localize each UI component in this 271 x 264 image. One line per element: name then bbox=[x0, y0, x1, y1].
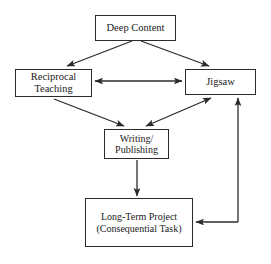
edge-reciprocal-teaching-to-writing-publishing bbox=[54, 99, 124, 126]
node-long-term-project-line-2: (Consequential Task) bbox=[97, 223, 182, 234]
node-writing-publishing: Writing/ Publishing bbox=[104, 129, 169, 159]
edge-writing-publishing-to-jigsaw bbox=[146, 98, 211, 126]
diagram-canvas: Deep Content Reciprocal Teaching Jigsaw … bbox=[0, 0, 271, 264]
node-long-term-project-line-1: Long-Term Project bbox=[101, 211, 177, 222]
node-jigsaw-line-1: Jigsaw bbox=[206, 76, 235, 88]
edge-deep-content-to-reciprocal-teaching bbox=[67, 41, 132, 66]
node-deep-content: Deep Content bbox=[95, 15, 176, 41]
node-long-term-project: Long-Term Project (Consequential Task) bbox=[85, 198, 193, 247]
node-jigsaw: Jigsaw bbox=[185, 69, 256, 95]
node-writing-publishing-line-2: Publishing bbox=[115, 144, 158, 155]
edge-deep-content-to-jigsaw bbox=[141, 41, 209, 66]
node-deep-content-line-1: Deep Content bbox=[106, 22, 164, 34]
node-reciprocal-teaching-line-2: Teaching bbox=[34, 83, 72, 95]
node-reciprocal-teaching-line-1: Reciprocal bbox=[31, 71, 76, 83]
node-reciprocal-teaching: Reciprocal Teaching bbox=[15, 69, 92, 97]
node-writing-publishing-line-1: Writing/ bbox=[120, 133, 153, 144]
